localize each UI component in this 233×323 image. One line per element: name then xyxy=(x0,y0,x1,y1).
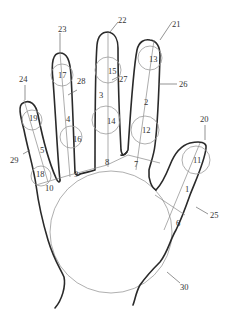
label-19: 19 xyxy=(29,113,38,123)
label-22: 22 xyxy=(118,15,127,25)
leader-lines xyxy=(23,22,208,283)
segment-7 xyxy=(128,155,160,163)
label-25: 25 xyxy=(210,210,219,220)
label-10: 10 xyxy=(45,183,54,193)
label-8: 8 xyxy=(105,157,109,167)
label-15: 15 xyxy=(108,66,117,76)
finger-axes xyxy=(24,32,200,230)
circle-14 xyxy=(92,106,120,134)
label-1: 1 xyxy=(185,184,189,194)
label-3: 3 xyxy=(99,90,103,100)
hand-diagram: 1 2 3 4 5 6 7 8 9 10 11 12 13 14 15 16 1… xyxy=(0,0,233,323)
segment-6 xyxy=(155,195,185,215)
label-13: 13 xyxy=(149,54,158,64)
label-5: 5 xyxy=(40,145,44,155)
label-4: 4 xyxy=(66,114,71,124)
label-26: 26 xyxy=(179,79,188,89)
label-14: 14 xyxy=(107,116,116,126)
label-28: 28 xyxy=(77,76,86,86)
label-2: 2 xyxy=(144,97,148,107)
label-29: 29 xyxy=(10,155,19,165)
label-23: 23 xyxy=(58,24,67,34)
label-16: 16 xyxy=(73,134,82,144)
label-24: 24 xyxy=(19,74,28,84)
label-30: 30 xyxy=(180,282,189,292)
segment-8 xyxy=(107,155,128,165)
label-20: 20 xyxy=(200,114,209,124)
label-12: 12 xyxy=(142,125,151,135)
label-18: 18 xyxy=(36,169,45,179)
label-7: 7 xyxy=(134,159,138,169)
label-17: 17 xyxy=(58,70,67,80)
label-6: 6 xyxy=(176,218,180,228)
label-27: 27 xyxy=(119,74,128,84)
label-21: 21 xyxy=(172,19,181,29)
label-9: 9 xyxy=(74,169,78,179)
label-11: 11 xyxy=(193,155,201,165)
